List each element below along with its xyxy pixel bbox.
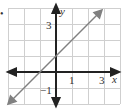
grid bbox=[8, 8, 121, 105]
x-tick-1: 1 bbox=[69, 75, 75, 86]
y-axis-label: y bbox=[60, 6, 65, 17]
y-tick-neg1: −1 bbox=[40, 85, 52, 96]
x-tick-3: 3 bbox=[99, 75, 105, 86]
bullet: • bbox=[0, 9, 4, 19]
y-tick-3: 3 bbox=[46, 20, 52, 31]
x-axis-label: x bbox=[112, 74, 117, 85]
